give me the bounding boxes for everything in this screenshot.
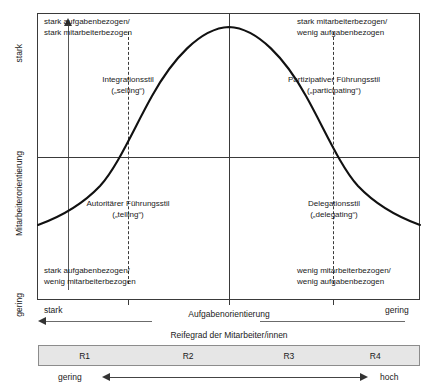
y-axis-title: Mitarbeiterorientierung	[14, 151, 24, 236]
y-axis-top-label: stark	[14, 44, 24, 62]
maturity-left-label: gering	[58, 372, 82, 382]
x-axis-tick-1	[128, 300, 129, 305]
x-axis-line-right	[260, 321, 405, 322]
quadrant-label-top-left: stark aufgabenbezogen/ stark mitarbeiter…	[44, 16, 132, 38]
maturity-cell-r2: R2	[130, 346, 246, 365]
quadrant-bl-line2: wenig mitarbeiterbezogen	[44, 276, 136, 287]
quadrant-bl-line1: stark aufgabenbezogen/	[44, 265, 136, 276]
y-axis-bottom-label: gering	[14, 293, 24, 317]
maturity-cell-r3: R3	[246, 346, 332, 365]
x-axis-right-label: gering	[385, 305, 409, 315]
style-delegating-english: („delegating“)	[308, 209, 360, 220]
dashed-line-selling	[128, 32, 129, 284]
quadrant-tr-line2: wenig aufgabenbezogen	[297, 27, 387, 38]
x-axis-tick-3	[333, 300, 334, 305]
quadrant-br-line1: wenig mitarbeiterbezogen/	[297, 265, 391, 276]
dashed-line-participating	[333, 32, 334, 284]
maturity-right-label: hoch	[380, 372, 398, 382]
quadrant-tl-line2: stark mitarbeiterbezogen	[44, 27, 132, 38]
x-axis-arrow-head-icon	[38, 317, 46, 325]
style-telling-name: Autoritärer Führungsstil	[86, 198, 169, 209]
style-label-selling: Integrationsstil („selling“)	[102, 74, 154, 96]
x-axis-tick-2	[229, 300, 230, 305]
quadrant-tr-line1: stark mitarbeiterbezogen/	[297, 16, 387, 27]
maturity-caption: Reifegrad der Mitarbeiter/innen	[170, 330, 287, 340]
maturity-level-bar: R1 R2 R3 R4	[38, 345, 420, 366]
quadrant-label-top-right: stark mitarbeiterbezogen/ wenig aufgaben…	[297, 16, 387, 38]
style-participating-english: („participating“)	[288, 85, 380, 96]
quadrant-tl-line1: stark aufgabenbezogen/	[44, 16, 132, 27]
style-participating-name: Partizipativer Führungsstil	[288, 74, 380, 85]
style-selling-name: Integrationsstil	[102, 74, 154, 85]
x-axis-title: Aufgabenorientierung	[188, 309, 269, 319]
x-axis-line-left	[45, 321, 152, 322]
situational-leadership-diagram: stark Mitarbeiterorientierung gering sta…	[0, 0, 435, 391]
maturity-cell-r1: R1	[39, 346, 130, 365]
style-label-delegating: Delegationsstil („delegating“)	[308, 198, 360, 220]
style-label-participating: Partizipativer Führungsstil („participat…	[288, 74, 380, 96]
vertical-divider-line	[229, 14, 230, 300]
maturity-cell-r4: R4	[332, 346, 419, 365]
quadrant-label-bottom-right: wenig mitarbeiterbezogen/ wenig aufgaben…	[297, 265, 391, 287]
maturity-arrow-line	[110, 377, 362, 378]
style-label-telling: Autoritärer Führungsstil („telling“)	[86, 198, 169, 220]
maturity-arrow-head-right-icon	[360, 373, 368, 381]
x-axis-left-label: stark	[44, 305, 62, 315]
style-delegating-name: Delegationsstil	[308, 198, 360, 209]
style-telling-english: („telling“)	[86, 209, 169, 220]
maturity-arrow-head-left-icon	[102, 373, 110, 381]
quadrant-label-bottom-left: stark aufgabenbezogen/ wenig mitarbeiter…	[44, 265, 136, 287]
style-selling-english: („selling“)	[102, 85, 154, 96]
quadrant-br-line2: wenig aufgabenbezogen	[297, 276, 391, 287]
